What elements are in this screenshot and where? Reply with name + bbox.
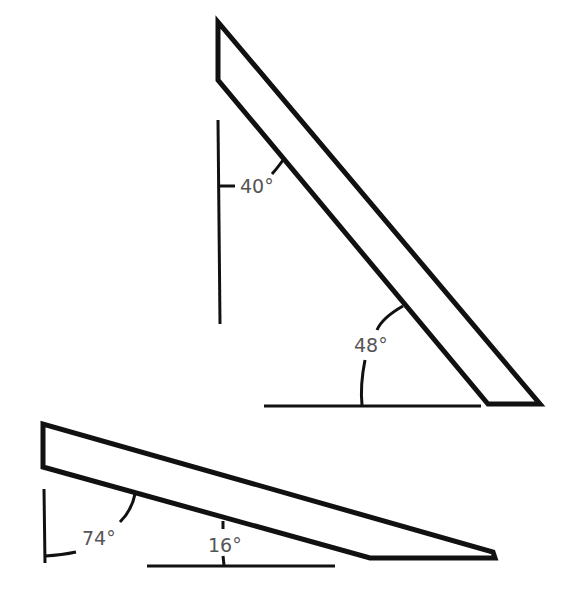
angle-diagram: 40° 48° 74° 16°: [0, 0, 570, 616]
angle-label-48: 48°: [354, 334, 388, 356]
lower-vertical-reference: [44, 489, 76, 563]
angle-label-74: 74°: [82, 527, 116, 549]
angle-label-40: 40°: [240, 175, 274, 197]
angle-label-16: 16°: [208, 534, 242, 556]
angle-arc-40: [272, 160, 283, 174]
angle-arc-48: [377, 306, 403, 330]
angle-arc-48-lower: [361, 360, 365, 405]
angle-arc-16-bottom: [223, 556, 224, 565]
angle-arc-74: [120, 494, 135, 522]
upper-vertical-reference: [218, 120, 235, 324]
